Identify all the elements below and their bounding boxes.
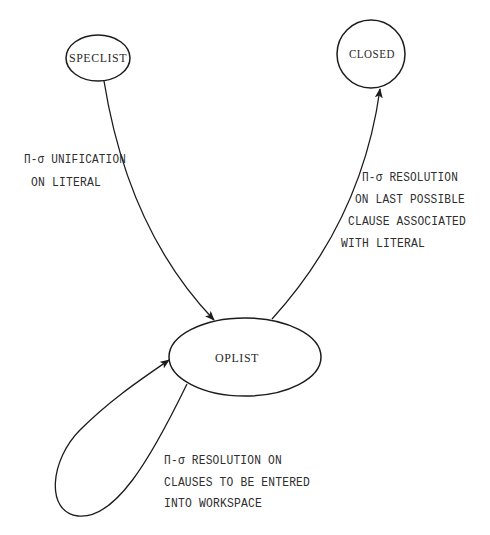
edge-label-line: Π-σ RESOLUTION (362, 171, 458, 185)
node-speclist: SPECLIST (66, 35, 130, 81)
edge-speclist-to-oplist (104, 81, 214, 320)
edge-label-line: CLAUSE ASSOCIATED (348, 215, 466, 229)
edge-label-line: INTO WORKSPACE (164, 497, 262, 511)
node-closed: CLOSED (337, 20, 405, 88)
edge-label-line: ON LITERAL (31, 176, 101, 190)
edge-label-resolution-workspace: Π-σ RESOLUTION ON CLAUSES TO BE ENTERED … (164, 454, 310, 511)
edge-label-resolution-last-clause: Π-σ RESOLUTION ON LAST POSSIBLE CLAUSE A… (341, 171, 466, 251)
node-label-speclist: SPECLIST (69, 50, 127, 65)
edge-label-line: ON LAST POSSIBLE (355, 193, 465, 207)
node-oplist: OPLIST (169, 318, 321, 396)
edge-label-line: WITH LITERAL (341, 237, 425, 251)
edge-label-line: CLAUSES TO BE ENTERED (164, 476, 310, 490)
edge-label-unification: Π-σ UNIFICATION ON LITERAL (24, 153, 126, 190)
edge-oplist-self-loop (55, 360, 187, 516)
node-label-oplist: OPLIST (215, 350, 259, 365)
state-diagram: SPECLIST CLOSED OPLIST Π-σ UNIFICATION O… (0, 0, 490, 535)
node-label-closed: CLOSED (349, 46, 395, 61)
edge-label-line: Π-σ RESOLUTION ON (164, 454, 282, 468)
edge-label-line: Π-σ UNIFICATION (24, 153, 126, 167)
